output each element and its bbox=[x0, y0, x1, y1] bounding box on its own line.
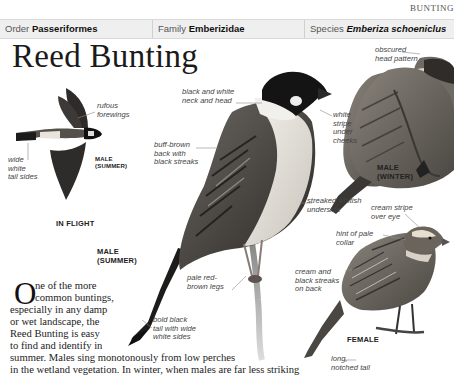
label-obscured-head-pattern: obscured head pattern bbox=[375, 46, 418, 63]
body-line-8: in the wetland vegetation. In winter, wh… bbox=[10, 364, 299, 377]
caption-female: FEMALE bbox=[347, 335, 379, 344]
caption-in-flight: IN FLIGHT bbox=[56, 219, 94, 228]
body-line-5: Reed Bunting is easy bbox=[10, 328, 100, 341]
label-pale-collar: hint of pale collar bbox=[336, 230, 373, 247]
label-streaked-underside: streaked whitish underside bbox=[307, 197, 361, 214]
label-bold-black-tail: bold black tail with wide white sides bbox=[153, 316, 196, 342]
body-line-2: common buntings, bbox=[35, 292, 114, 305]
caption-male-summer: MALE (SUMMER) bbox=[97, 247, 137, 265]
label-black-white-neck-head: black and white neck and head bbox=[182, 88, 234, 105]
body-line-1: ne of the more bbox=[35, 280, 96, 293]
label-cream-black-streaks: cream and black streaks on back bbox=[295, 268, 339, 294]
label-cream-stripe-eye: cream stripe over eye bbox=[371, 204, 413, 221]
label-long-notched-tail: long, notched tail bbox=[331, 355, 370, 372]
body-line-7: summer. Males sing monotonously from low… bbox=[10, 352, 235, 365]
label-buff-brown-back: buff-brown back with black streaks bbox=[154, 141, 198, 167]
caption-male-winter: MALE (WINTER) bbox=[377, 163, 413, 181]
in-flight-bird-icon bbox=[16, 88, 102, 200]
label-rufous-forewings: rufous forewings bbox=[97, 102, 130, 119]
label-pale-legs: pale red- brown legs bbox=[187, 274, 224, 291]
label-wide-white-tail-sides: wide white tail sides bbox=[8, 156, 38, 182]
body-line-3: especially in any damp bbox=[10, 304, 107, 317]
body-line-4: or wet landscape, the bbox=[10, 316, 99, 329]
male-summer-bird-icon bbox=[128, 72, 332, 346]
label-white-stripe-cheeks: white stripe under cheeks bbox=[333, 111, 357, 145]
body-line-6: to find and identify in bbox=[10, 340, 102, 353]
caption-flight-male-summer: MALE (SUMMER) bbox=[95, 156, 127, 170]
